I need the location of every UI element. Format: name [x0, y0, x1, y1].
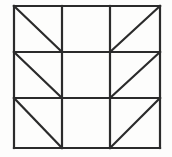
- figure-background: [0, 0, 172, 157]
- grid-figure: [0, 0, 172, 157]
- figure-canvas: [0, 0, 172, 157]
